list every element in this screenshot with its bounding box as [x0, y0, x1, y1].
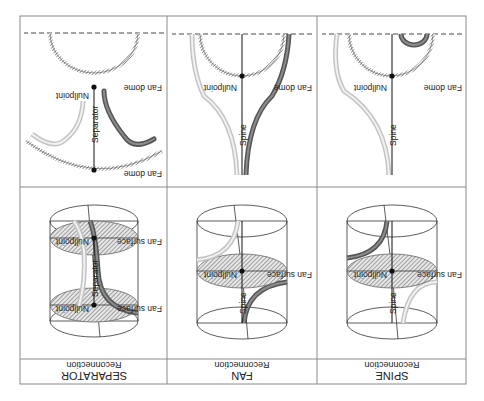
nullpoint-marker	[239, 268, 244, 273]
nullpoint-top-marker	[91, 235, 96, 240]
separator-cross-section: Fan dome Fan dome Nullpoint Separator	[24, 33, 164, 179]
fan-surface-bottom-label: Fan surface	[117, 304, 162, 314]
header-spine-title: SPINE	[375, 370, 408, 382]
fan-cross-section: Fan dome Nullpoint Spine	[172, 34, 312, 175]
nullpoint-bottom-label: Nullpoint	[55, 304, 89, 314]
nullpoint-bottom-marker	[91, 302, 96, 307]
header-fan-title: FAN	[231, 370, 252, 382]
fan-cylinder: Fan surface Nullpoint Spine	[197, 205, 312, 339]
nullpoint-label: Nullpoint	[55, 91, 89, 101]
spine-cylinder: Fan surface Nullpoint Spine	[347, 205, 462, 339]
nullpoint-label: Nullpoint	[353, 270, 387, 280]
fan-dome-label: Fan dome	[423, 83, 462, 93]
fan-surface-label: Fan surface	[267, 270, 312, 280]
spine-label: Spine	[388, 292, 398, 314]
fan-surface-top-label: Fan surface	[117, 237, 162, 247]
header-spine-subtitle: Reconnection	[364, 360, 419, 370]
nullpoint-marker	[389, 268, 394, 273]
bottom-null-marker	[91, 167, 96, 172]
column-headers: SPINE Reconnection FAN Reconnection SEPA…	[61, 360, 420, 382]
header-separator-title: SEPARATOR	[61, 370, 127, 382]
reconnection-figure: SPINE Reconnection FAN Reconnection SEPA…	[0, 0, 484, 401]
separator-label: Separator	[90, 260, 100, 297]
spine-label: Spine	[238, 124, 248, 146]
nullpoint-label: Nullpoint	[203, 270, 237, 280]
separator-cylinder: Fan surface Fan surface Nullpoint Nullpo…	[50, 205, 162, 337]
spine-label: Spine	[238, 292, 248, 314]
fan-surface-label: Fan surface	[417, 270, 462, 280]
header-fan-subtitle: Reconnection	[214, 360, 269, 370]
spine-label: Spine	[388, 124, 398, 146]
spine-cross-section: Fan dome Nullpoint Spine	[322, 34, 462, 175]
fan-dome-label: Fan dome	[273, 83, 312, 93]
header-separator-subtitle: Reconnection	[66, 360, 121, 370]
nullpoint-marker	[239, 73, 244, 78]
nullpoint-top-label: Nullpoint	[55, 237, 89, 247]
fan-dome-bottom-label: Fan dome	[123, 169, 162, 179]
nullpoint-label: Nullpoint	[203, 83, 237, 93]
nullpoint-marker	[91, 84, 96, 89]
separator-label: Separator	[90, 106, 100, 143]
figure-rotated: SPINE Reconnection FAN Reconnection SEPA…	[20, 16, 466, 384]
fan-dome-top-label: Fan dome	[123, 83, 162, 93]
nullpoint-label: Nullpoint	[353, 83, 387, 93]
nullpoint-marker	[389, 73, 394, 78]
